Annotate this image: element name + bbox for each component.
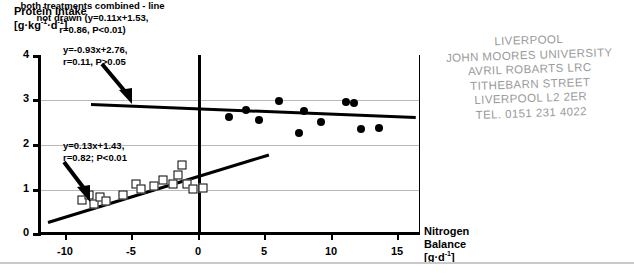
data-point-filled-circle xyxy=(350,99,358,107)
data-point-filled-circle xyxy=(275,97,283,105)
y-axis-title-line1: Protein Intake xyxy=(14,5,87,17)
y-tick-label-4: 4 xyxy=(9,48,29,60)
y-tick-label-0: 0 xyxy=(9,226,29,238)
x-tick-label--10: -10 xyxy=(50,245,80,257)
x-tick-label-0: 0 xyxy=(183,245,213,257)
y-tick-label-3: 3 xyxy=(9,92,29,104)
y-axis-title: Protein Intake [g·kg-1·d-1] xyxy=(14,4,87,32)
x-tick-label--5: -5 xyxy=(116,245,146,257)
data-point-open-square xyxy=(119,191,128,200)
page-bottom-rule xyxy=(0,262,634,264)
y-tick-label-2: 2 xyxy=(9,137,29,149)
y-tick-label-1: 1 xyxy=(9,182,29,194)
y-tick-4 xyxy=(33,55,41,58)
data-point-filled-circle xyxy=(255,116,263,124)
data-point-open-square xyxy=(150,182,159,191)
x-tick-0 xyxy=(198,233,200,240)
x-tick-label-10: 10 xyxy=(316,245,346,257)
zero-vertical-line xyxy=(198,55,201,232)
y-tick-0 xyxy=(33,233,41,236)
y-axis-title-units: [g·kg-1·d-1] xyxy=(14,18,87,32)
x-tick-5 xyxy=(264,233,266,240)
x-tick-label-15: 15 xyxy=(382,245,412,257)
data-point-filled-circle xyxy=(295,129,303,137)
x-tick-10 xyxy=(331,233,333,240)
y-tick-2 xyxy=(33,144,41,147)
x-axis-title-line2: Balance xyxy=(424,238,469,251)
data-point-open-square xyxy=(159,176,168,185)
data-point-open-square xyxy=(174,171,183,180)
annotation-open-line1: y=0.13x+1.43, xyxy=(63,140,127,152)
x-axis-title-line1: Nitrogen xyxy=(424,225,469,238)
data-point-filled-circle xyxy=(300,107,308,115)
x-axis-title: Nitrogen Balance [g·d-1] xyxy=(424,225,469,264)
data-point-open-square xyxy=(137,185,146,194)
data-point-open-square xyxy=(178,161,187,170)
y-tick-1 xyxy=(33,189,41,192)
annotation-filled-line1: y=-0.93x+2.76, xyxy=(63,44,127,56)
x-tick--10 xyxy=(65,233,67,240)
data-point-filled-circle xyxy=(225,113,233,121)
x-tick--5 xyxy=(131,233,133,240)
data-point-open-square xyxy=(199,184,208,193)
data-point-open-square xyxy=(169,180,178,189)
data-point-filled-circle xyxy=(242,106,250,114)
x-tick-15 xyxy=(397,233,399,240)
scatter-plot-figure: Protein Intake [g·kg-1·d-1] 0 1 2 3 4 -1… xyxy=(0,0,634,275)
data-point-filled-circle xyxy=(342,98,350,106)
data-point-filled-circle xyxy=(317,118,325,126)
data-point-filled-circle xyxy=(357,125,365,133)
x-tick-label-5: 5 xyxy=(249,245,279,257)
data-point-open-square xyxy=(189,185,198,194)
y-tick-3 xyxy=(33,99,41,102)
data-point-filled-circle xyxy=(375,124,383,132)
annotation-arrow-open-icon xyxy=(60,160,108,208)
library-stamp: LIVERPOOL JOHN MOORES UNIVERSITY AVRIL R… xyxy=(429,30,632,124)
annotation-arrow-filled-icon xyxy=(98,62,148,110)
